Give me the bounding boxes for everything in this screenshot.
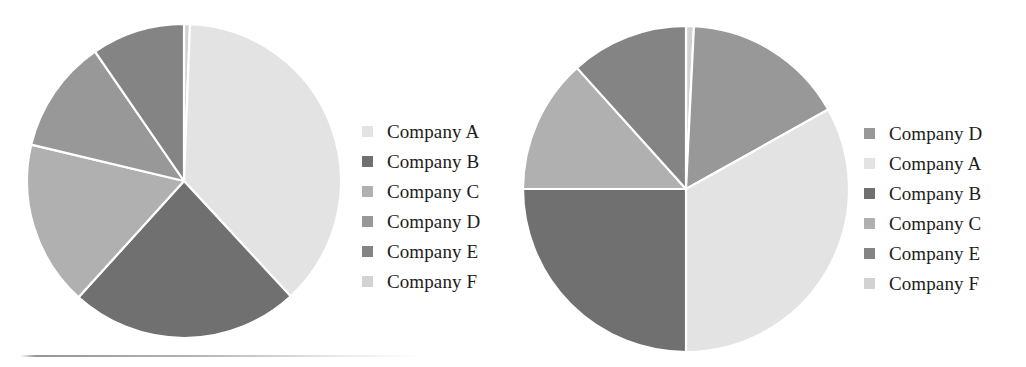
pie-right-slices <box>523 26 849 352</box>
horizontal-rule <box>20 355 420 357</box>
legend-right: Company DCompany ACompany BCompany CComp… <box>864 118 982 298</box>
chart-panel-left: Company ACompany BCompany CCompany DComp… <box>0 0 500 367</box>
legend-left: Company ACompany BCompany CCompany DComp… <box>362 116 480 296</box>
legend-item-label: Company E <box>889 244 980 263</box>
chart-panel-right: Company DCompany ACompany BCompany CComp… <box>500 0 1026 367</box>
legend-item-company-e[interactable]: Company E <box>362 236 480 266</box>
legend-item-label: Company C <box>387 182 479 201</box>
legend-item-label: Company F <box>889 274 979 293</box>
pie-left-slices <box>27 24 341 338</box>
legend-item-label: Company B <box>889 184 981 203</box>
legend-item-label: Company F <box>387 272 477 291</box>
legend-swatch-icon <box>362 126 373 137</box>
legend-item-label: Company D <box>387 212 480 231</box>
legend-swatch-icon <box>362 186 373 197</box>
pie-slice-company-b[interactable] <box>523 189 686 352</box>
legend-item-company-e[interactable]: Company E <box>864 238 982 268</box>
legend-item-company-f[interactable]: Company F <box>362 266 480 296</box>
legend-item-label: Company B <box>387 152 479 171</box>
legend-swatch-icon <box>864 248 875 259</box>
legend-swatch-icon <box>864 218 875 229</box>
legend-item-company-b[interactable]: Company B <box>362 146 480 176</box>
legend-item-label: Company A <box>387 122 479 141</box>
legend-swatch-icon <box>864 278 875 289</box>
legend-item-company-a[interactable]: Company A <box>864 148 982 178</box>
legend-item-label: Company C <box>889 214 981 233</box>
legend-item-label: Company E <box>387 242 478 261</box>
legend-swatch-icon <box>864 188 875 199</box>
legend-swatch-icon <box>362 246 373 257</box>
legend-swatch-icon <box>362 216 373 227</box>
legend-item-company-a[interactable]: Company A <box>362 116 480 146</box>
legend-item-company-d[interactable]: Company D <box>864 118 982 148</box>
figure-canvas: Company ACompany BCompany CCompany DComp… <box>0 0 1026 367</box>
legend-swatch-icon <box>864 158 875 169</box>
legend-item-company-c[interactable]: Company C <box>362 176 480 206</box>
legend-item-company-c[interactable]: Company C <box>864 208 982 238</box>
legend-swatch-icon <box>864 128 875 139</box>
pie-chart-right <box>520 24 852 354</box>
pie-left-svg <box>26 18 342 344</box>
legend-item-label: Company A <box>889 154 981 173</box>
legend-item-company-b[interactable]: Company B <box>864 178 982 208</box>
legend-item-company-d[interactable]: Company D <box>362 206 480 236</box>
legend-swatch-icon <box>362 156 373 167</box>
legend-swatch-icon <box>362 276 373 287</box>
pie-chart-left <box>26 18 342 344</box>
legend-item-company-f[interactable]: Company F <box>864 268 982 298</box>
legend-item-label: Company D <box>889 124 982 143</box>
pie-right-svg <box>520 24 852 354</box>
